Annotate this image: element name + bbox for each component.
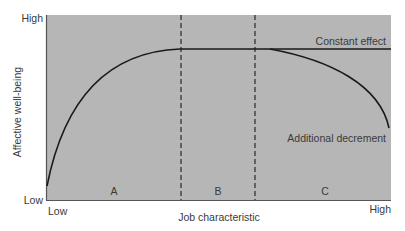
y-low-label: Low [24,194,44,206]
y-high-label: High [21,12,43,24]
region-c-label: C [321,185,329,197]
region-a-label: A [110,185,117,197]
y-axis-title: Affective well-being [11,67,23,157]
x-low-label: Low [48,205,68,217]
vitamin-model-chart: High Low Low High Job characteristic Aff… [0,0,405,231]
constant-effect-label: Constant effect [316,35,387,47]
x-axis-title: Job characteristic [178,211,260,223]
region-b-label: B [214,185,221,197]
additional-decrement-label: Additional decrement [287,132,386,144]
x-high-label: High [369,203,391,215]
